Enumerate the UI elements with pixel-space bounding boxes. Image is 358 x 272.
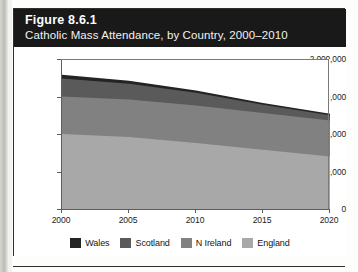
x-tick-label: 2005 — [119, 215, 138, 225]
legend-swatch-icon — [242, 238, 253, 248]
chart-legend: WalesScotlandN IrelandEngland — [14, 233, 346, 253]
stacked-area-series-group — [62, 59, 330, 209]
figure-number: Figure 8.6.1 — [25, 13, 346, 28]
legend-label: Scotland — [135, 238, 169, 248]
legend-item: N Ireland — [181, 238, 232, 248]
x-tick-mark — [195, 209, 196, 213]
x-tick-mark — [262, 209, 263, 213]
x-tick-label: 2020 — [320, 215, 339, 225]
x-tick-mark — [128, 209, 129, 213]
legend-swatch-icon — [120, 238, 131, 248]
legend-item: England — [242, 238, 289, 248]
figure-bottom-rule — [13, 266, 345, 267]
legend-swatch-icon — [181, 238, 192, 248]
figure-caption: Catholic Mass Attendance, by Country, 20… — [25, 28, 346, 43]
legend-item: Wales — [70, 238, 109, 248]
plot-region — [61, 59, 330, 210]
x-tick-label: 2010 — [186, 215, 205, 225]
x-tick-mark — [61, 209, 62, 213]
chart-area: 0500,0001,000,0001,500,0002,000,000 2000… — [14, 47, 346, 257]
legend-label: Wales — [85, 238, 109, 248]
x-tick-mark — [329, 209, 330, 213]
x-tick-label: 2015 — [253, 215, 272, 225]
page-gutter-shadow — [0, 0, 8, 272]
figure-page: Figure 8.6.1 Catholic Mass Attendance, b… — [0, 0, 358, 272]
legend-label: N Ireland — [196, 238, 232, 248]
figure-title-band: Figure 8.6.1 Catholic Mass Attendance, b… — [14, 9, 346, 47]
figure-box: Figure 8.6.1 Catholic Mass Attendance, b… — [13, 8, 345, 256]
x-tick-label: 2000 — [52, 215, 71, 225]
legend-swatch-icon — [70, 238, 81, 248]
legend-item: Scotland — [120, 238, 169, 248]
legend-label: England — [257, 238, 289, 248]
page-gutter-inner — [8, 0, 12, 272]
